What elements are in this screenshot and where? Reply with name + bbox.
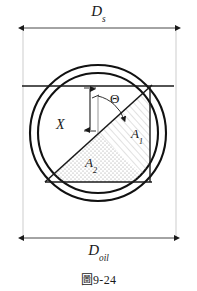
label-area-two-symbol: A — [85, 155, 93, 170]
label-theta-symbol: Θ — [110, 91, 119, 106]
label-area-one-symbol: A — [131, 126, 139, 141]
label-outer-diameter: Ds — [0, 4, 197, 22]
label-outer-diameter-symbol: D — [91, 3, 102, 19]
label-theta: Θ — [110, 92, 119, 105]
label-depth: X — [56, 118, 65, 132]
label-area-two: A2 — [85, 156, 97, 173]
label-area-one: A1 — [131, 127, 143, 144]
label-depth-symbol: X — [56, 117, 65, 132]
figure-container: Ds Doil X Θ A1 A2 圖9-24 — [0, 0, 197, 291]
figure-caption: 圖9-24 — [0, 270, 197, 288]
label-outer-diameter-subscript: s — [102, 14, 106, 24]
label-inner-diameter-symbol: D — [88, 242, 99, 258]
label-inner-diameter: Doil — [0, 243, 197, 261]
label-area-two-subscript: 2 — [93, 166, 97, 175]
label-inner-diameter-subscript: oil — [99, 253, 109, 263]
label-area-one-subscript: 1 — [139, 137, 143, 146]
